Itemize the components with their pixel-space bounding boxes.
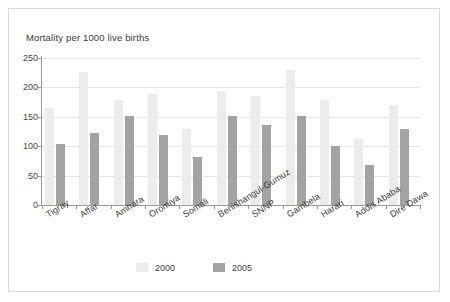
x-axis-tick-mark — [248, 205, 249, 209]
chart-title: Mortality per 1000 live births — [26, 32, 149, 43]
plot-area — [42, 58, 420, 205]
bar-2005 — [228, 116, 237, 205]
legend-label: 2000 — [155, 263, 175, 273]
bar-2005 — [56, 144, 65, 205]
bar-group — [214, 58, 248, 205]
bar-2000 — [320, 100, 329, 205]
y-axis-tick-label: 250 — [23, 54, 38, 63]
bar-2005 — [125, 116, 134, 205]
bar-group — [283, 58, 317, 205]
x-axis-tick-mark — [76, 205, 77, 209]
bar-2000 — [217, 91, 226, 205]
bar-group — [179, 58, 213, 205]
legend-swatch — [136, 263, 148, 272]
x-axis-tick-mark — [111, 205, 112, 209]
bar-2000 — [148, 94, 157, 205]
bar-2000 — [286, 70, 295, 205]
x-axis-tick-mark — [179, 205, 180, 209]
x-axis-tick-mark — [283, 205, 284, 209]
bar-2005 — [90, 133, 99, 205]
bar-2000 — [354, 139, 363, 205]
bar-group — [351, 58, 385, 205]
bar-2000 — [114, 100, 123, 205]
bar-group — [76, 58, 110, 205]
bar-2005 — [400, 129, 409, 205]
y-axis-tick-label: 100 — [23, 142, 38, 151]
bar-group — [386, 58, 420, 205]
bar-2005 — [331, 146, 340, 205]
x-axis-tick-mark — [145, 205, 146, 209]
x-axis-tick-mark — [420, 205, 421, 209]
y-axis-tick-label: 150 — [23, 113, 38, 122]
chart-figure: Mortality per 1000 live births 050100150… — [0, 0, 450, 302]
bar-2000 — [182, 129, 191, 205]
bar-group — [111, 58, 145, 205]
x-axis-tick-mark — [317, 205, 318, 209]
y-axis-tick-label: 50 — [28, 172, 38, 181]
bar-2000 — [79, 72, 88, 205]
bar-2005 — [159, 135, 168, 205]
x-axis-tick-mark — [386, 205, 387, 209]
legend-label: 2005 — [232, 263, 252, 273]
x-axis-tick-mark — [42, 205, 43, 209]
bar-group — [42, 58, 76, 205]
bar-2005 — [297, 116, 306, 205]
x-axis-tick-mark — [214, 205, 215, 209]
bar-2000 — [45, 108, 54, 205]
legend-swatch — [213, 263, 225, 272]
bar-group — [145, 58, 179, 205]
y-axis-tick-labels: 050100150200250 — [14, 0, 38, 302]
x-axis-tick-mark — [351, 205, 352, 209]
bar-group — [317, 58, 351, 205]
y-axis-tick-label: 200 — [23, 83, 38, 92]
